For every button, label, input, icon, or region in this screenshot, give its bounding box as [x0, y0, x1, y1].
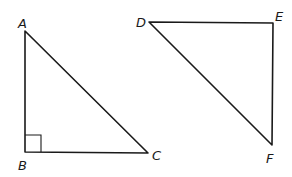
right-angle-marker-b: [25, 135, 41, 152]
vertex-label-b: B: [18, 158, 27, 173]
triangle-def: D E F: [136, 9, 284, 166]
triangle-def-outline: [149, 22, 273, 145]
vertex-label-f: F: [266, 151, 274, 166]
vertex-label-e: E: [275, 9, 284, 24]
triangle-abc-outline: [25, 31, 148, 153]
geometry-figure: A B C D E F: [0, 0, 292, 177]
vertex-label-c: C: [152, 148, 162, 163]
vertex-label-a: A: [17, 16, 27, 31]
vertex-label-d: D: [136, 15, 146, 30]
triangle-abc: A B C: [17, 16, 162, 173]
